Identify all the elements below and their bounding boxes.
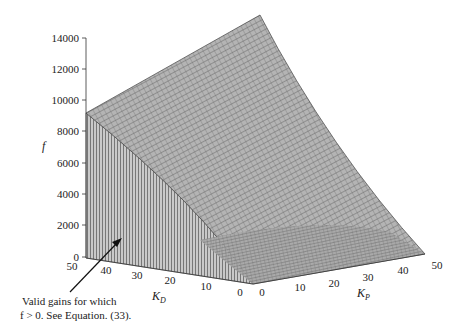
annotation-line-2: f > 0. See Equation. (33). xyxy=(20,309,132,322)
z-tick-2000: 2000 xyxy=(57,219,80,231)
kd-tick-20: 20 xyxy=(165,274,177,286)
kp-tick-10: 10 xyxy=(295,281,307,293)
kd-tick-0: 0 xyxy=(237,286,243,298)
kd-tick-10: 10 xyxy=(201,280,213,292)
kd-tick-30: 30 xyxy=(132,269,144,281)
z-tick-10000: 10000 xyxy=(52,94,80,106)
kp-tick-0: 0 xyxy=(259,286,265,298)
kp-tick-20: 20 xyxy=(329,277,341,289)
kd-tick-40: 40 xyxy=(101,264,113,276)
surface-plot: 0 2000 4000 6000 8000 10000 12000 14000 … xyxy=(0,0,464,328)
kd-axis-label: KD xyxy=(151,289,166,305)
z-axis: 0 2000 4000 6000 8000 10000 12000 14000 … xyxy=(42,32,86,263)
z-tick-12000: 12000 xyxy=(52,63,80,75)
z-tick-6000: 6000 xyxy=(57,157,80,169)
kp-axis-label: KP xyxy=(356,286,370,302)
annotation-line-1: Valid gains for which xyxy=(22,295,117,307)
z-axis-label: f xyxy=(42,139,47,153)
kp-tick-30: 30 xyxy=(363,271,375,283)
z-tick-8000: 8000 xyxy=(57,125,80,137)
kd-tick-50: 50 xyxy=(67,260,79,272)
kp-tick-50: 50 xyxy=(432,259,444,271)
kp-tick-40: 40 xyxy=(398,264,410,276)
z-tick-14000: 14000 xyxy=(52,32,80,44)
z-tick-4000: 4000 xyxy=(57,188,80,200)
